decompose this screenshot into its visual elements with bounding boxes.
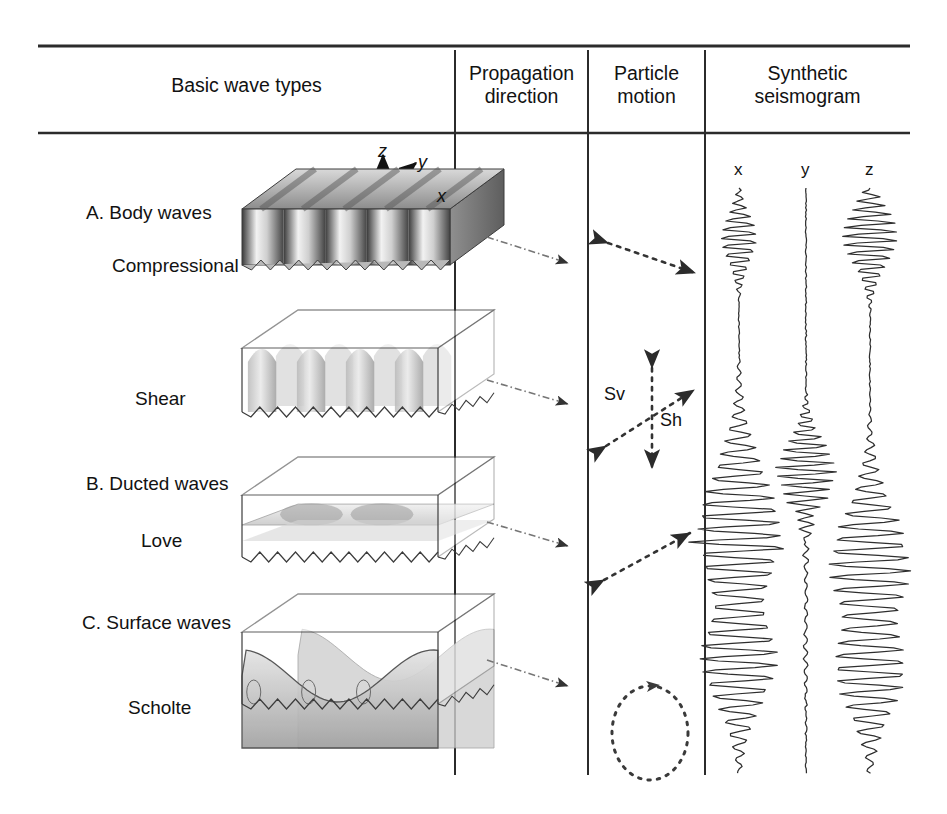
propagation-arrows — [487, 237, 568, 686]
propagation-arrow-scholte — [487, 660, 568, 686]
compression-stripe-0 — [242, 209, 284, 265]
seismogram-trace-x — [689, 188, 784, 773]
trace-header-y: y — [801, 160, 810, 180]
axis-label-z: z — [378, 141, 387, 162]
particle-motion-compressional-arrow — [608, 243, 695, 273]
block-scholte — [242, 594, 494, 748]
group-label-surface-waves: C. Surface waves — [82, 612, 231, 634]
particle-motion-label-sh: Sh — [660, 410, 682, 431]
propagation-arrow-love — [487, 522, 568, 546]
love-jagged-base — [242, 552, 438, 562]
row-label-love: Love — [141, 530, 182, 552]
trace-header-x: x — [734, 160, 743, 180]
row-label-compressional: Compressional — [112, 255, 239, 277]
particle-motion-label-sv: Sv — [604, 384, 625, 405]
particle-motion-scholte-ellipse — [612, 686, 688, 780]
block-compressional — [242, 169, 504, 270]
header-basic-wave-types: Basic wave types — [38, 74, 455, 97]
seismic-wave-types-figure: Basic wave types Propagation direction P… — [0, 0, 947, 814]
header-synthetic-seismogram: Synthetic seismogram — [705, 62, 910, 108]
compression-stripe-2 — [325, 209, 367, 265]
axis-label-x: x — [437, 186, 446, 207]
shear-column-2 — [346, 349, 374, 412]
wave-block-diagrams — [242, 169, 504, 748]
seismogram-trace-y — [776, 188, 837, 773]
compression-stripe-1 — [284, 209, 326, 265]
group-label-body-waves: A. Body waves — [86, 202, 212, 224]
header-particle-motion: Particle motion — [588, 62, 705, 108]
trace-header-z: z — [865, 160, 874, 180]
shear-column-3 — [395, 349, 423, 412]
block-love — [242, 457, 494, 562]
shear-column-0 — [248, 349, 276, 412]
propagation-arrow-compressional — [487, 237, 568, 263]
synthetic-seismograms — [689, 188, 911, 773]
header-propagation-direction: Propagation direction — [455, 62, 588, 108]
group-label-ducted-waves: B. Ducted waves — [86, 473, 229, 495]
propagation-arrow-shear — [487, 380, 568, 404]
particle-motion-symbols — [604, 243, 695, 780]
particle-motion-love-arrow — [604, 533, 690, 580]
compression-stripe-4 — [408, 209, 450, 265]
block-shear — [242, 310, 494, 417]
row-label-shear: Shear — [135, 388, 186, 410]
axis-label-y: y — [418, 152, 427, 173]
shear-column-1 — [297, 349, 325, 412]
compression-stripe-3 — [367, 209, 409, 265]
seismogram-trace-z — [829, 188, 910, 773]
row-label-scholte: Scholte — [128, 697, 191, 719]
